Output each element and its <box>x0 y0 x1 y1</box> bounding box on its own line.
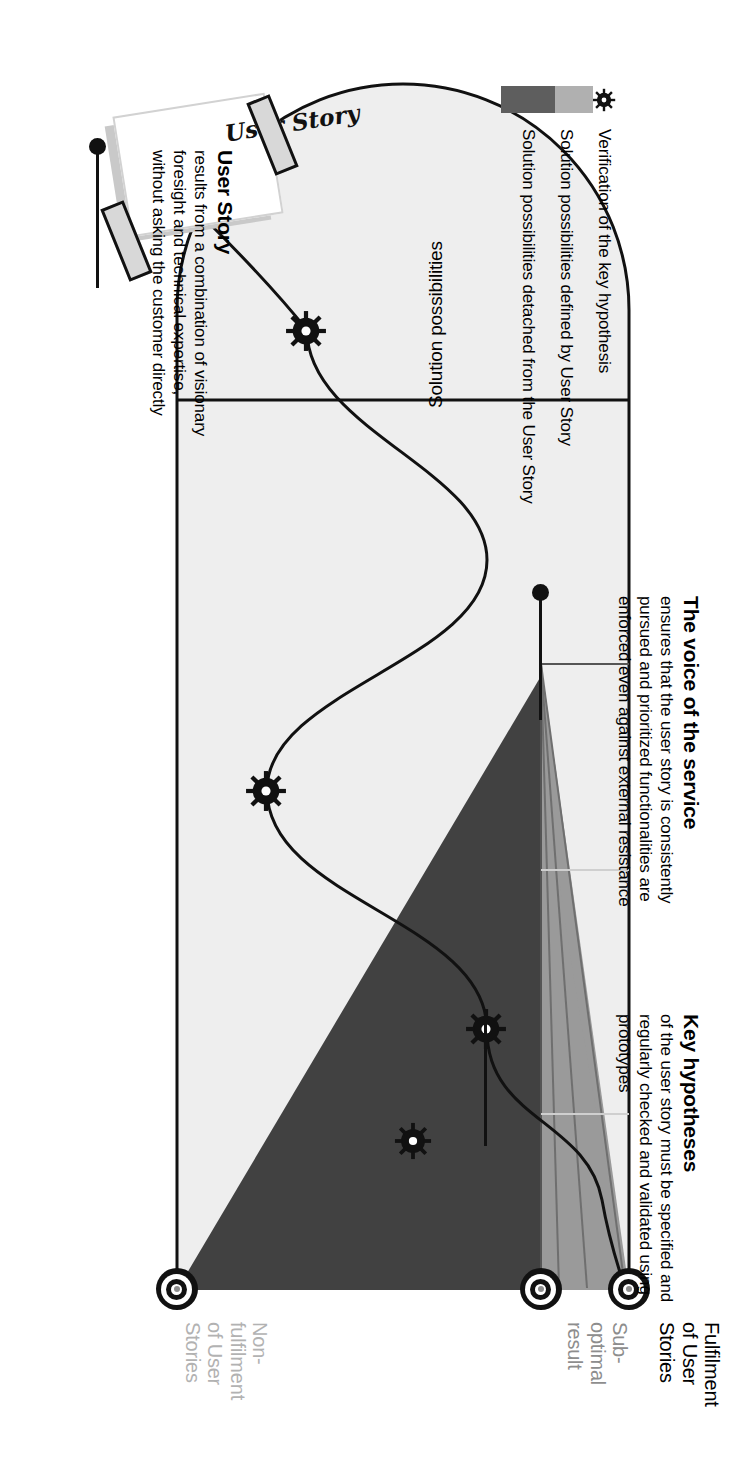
target-icon-non-fulfilment <box>156 1268 198 1310</box>
callout-voice-of-the-service: The voice of the service ensures that th… <box>614 596 703 926</box>
callout-title: Key hypotheses <box>679 1014 703 1354</box>
outcome-line: optimal <box>586 1322 608 1385</box>
outcome-line: Stories <box>656 1322 678 1407</box>
outcome-label-non-fulfilment: Non- fulfilment of User Stories <box>181 1322 271 1400</box>
leader-line-key-hypotheses <box>484 1010 487 1146</box>
solution-possibilities-label: Solution possibilities <box>425 241 447 408</box>
legend-swatch-dark <box>501 86 555 113</box>
callout-body: ensures that the user story is consisten… <box>614 596 676 926</box>
gear-icon-4 <box>394 1122 432 1160</box>
outcome-line: Fulfilment <box>701 1322 723 1407</box>
legend: Verification of the key hypothesis Solut… <box>503 86 617 504</box>
callout-user-story: User Story results from a combination of… <box>148 150 237 450</box>
outcome-line: fulfilment <box>226 1322 248 1400</box>
callout-title: The voice of the service <box>679 596 703 926</box>
legend-label: Solution possibilities detached from the… <box>518 129 538 504</box>
legend-label: Verification of the key hypothesis <box>594 129 614 373</box>
legend-item-detached: Solution possibilities detached from the… <box>515 86 541 504</box>
outcome-label-fulfilment: Fulfilment of User Stories <box>656 1322 723 1407</box>
callout-title: User Story <box>213 150 237 450</box>
outcome-label-sub-optimal: Sub- optimal result <box>564 1322 631 1385</box>
callout-body: results from a combination of visionary … <box>148 150 210 450</box>
leader-line-user-story <box>96 146 99 288</box>
callout-key-hypotheses: Key hypotheses of the user story must be… <box>614 1014 703 1354</box>
outcome-line: Sub- <box>609 1322 631 1385</box>
target-icon-sub-optimal <box>520 1268 562 1310</box>
callout-body: of the user story must be specified and … <box>614 1014 676 1354</box>
legend-item-defined: Solution possibilities defined by User S… <box>553 86 579 504</box>
gear-icon-2 <box>245 770 287 812</box>
leader-dot-voice <box>532 584 549 601</box>
gear-icon-1 <box>285 310 327 352</box>
outcome-line: of User <box>678 1322 700 1407</box>
outcome-line: Stories <box>181 1322 203 1400</box>
legend-label: Solution possibilities defined by User S… <box>556 129 576 446</box>
outcome-line: of User <box>204 1322 226 1400</box>
legend-item-verification: Verification of the key hypothesis <box>591 86 617 504</box>
diagram-canvas: Solution possibilities User Story User S… <box>0 0 737 1468</box>
outcome-line: Non- <box>249 1322 271 1400</box>
leader-line-voice <box>539 592 542 720</box>
leader-dot-user-story <box>89 138 106 155</box>
outcome-line: result <box>564 1322 586 1385</box>
